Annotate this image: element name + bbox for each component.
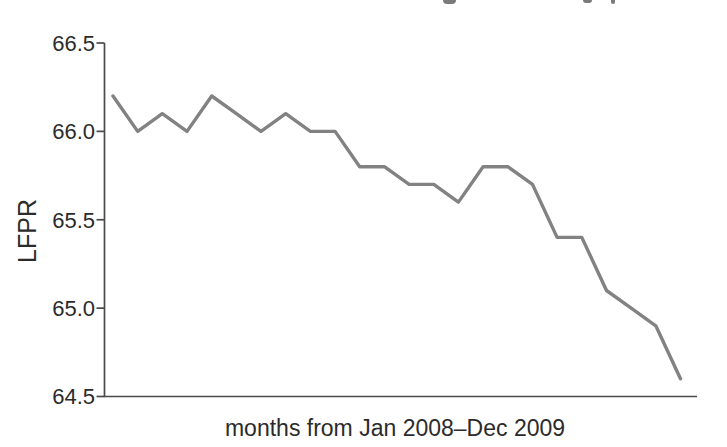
y-axis-ticks: 66.566.065.565.064.5 xyxy=(52,31,104,410)
y-tick-label: 65.5 xyxy=(52,208,95,233)
chart-axes xyxy=(104,43,697,397)
y-tick-label: 66.5 xyxy=(52,31,95,56)
x-axis-label: months from Jan 2008–Dec 2009 xyxy=(225,415,565,441)
y-tick-label: 64.5 xyxy=(52,384,95,409)
lfpr-line-chart: 66.566.065.565.064.5 LFPR months from Ja… xyxy=(0,0,727,447)
y-axis-label: LFPR xyxy=(13,199,41,263)
y-tick-label: 65.0 xyxy=(52,296,95,321)
lfpr-series-line xyxy=(113,96,681,379)
y-tick-label: 66.0 xyxy=(52,119,95,144)
scanned-book-page: 66.566.065.565.064.5 LFPR months from Ja… xyxy=(0,0,727,447)
